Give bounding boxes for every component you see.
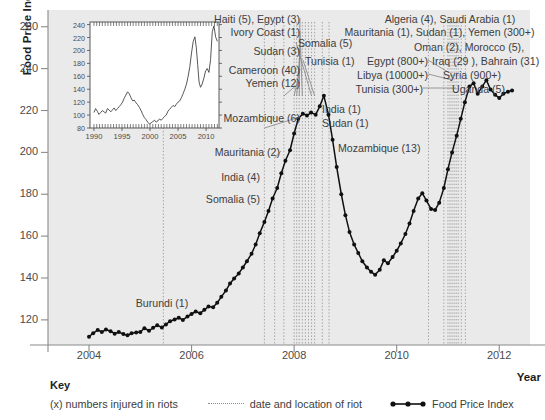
inset-y-tick-label: 160 bbox=[63, 72, 85, 81]
annotation-mauritania-sudan-yemen: Mauritania (1), Sudan (1), Yemen (300+) bbox=[334, 26, 545, 38]
key-label-fpi: Food Price Index bbox=[432, 398, 514, 410]
key-item-injured: (x) numbers injured in riots bbox=[50, 398, 178, 410]
annotation-tunisia-300: Tunisia (300+) bbox=[290, 83, 423, 95]
y-axis-title: Food Price Index bbox=[21, 0, 33, 93]
annotation-somalia-5-top: Somalia (5) bbox=[298, 37, 352, 49]
annotation-haiti-egypt: Haiti (5), Egypt (3) bbox=[120, 13, 300, 25]
x-tick-label: 2010 bbox=[367, 349, 427, 361]
y-tick-label: 200 bbox=[0, 145, 38, 157]
y-tick-label: 140 bbox=[0, 271, 38, 283]
inset-y-tick-label: 200 bbox=[63, 46, 85, 55]
key-item-riot: date and location of riot bbox=[208, 398, 362, 410]
annotation-sudan-1: Sudan (1) bbox=[322, 117, 369, 129]
y-axis-ticks bbox=[41, 27, 48, 320]
key-label-injured: (x) numbers injured in riots bbox=[50, 398, 178, 410]
annotation-algeria-saudi: Algeria (4), Saudi Arabia (1) bbox=[355, 13, 545, 25]
annotation-uganda: Uganda (5) bbox=[452, 83, 505, 95]
chart-key: Key (x) numbers injured in riots date an… bbox=[50, 379, 545, 410]
chart-root: Food Price Index Year 260240220200180160… bbox=[0, 0, 545, 420]
y-tick-label: 180 bbox=[0, 187, 38, 199]
y-tick-label: 220 bbox=[0, 104, 38, 116]
inset-x-tick-label: 2010 bbox=[189, 132, 223, 141]
annotation-india-1: India (1) bbox=[322, 103, 361, 115]
annotation-iraq-bahrain: Iraq (29 ), Bahrain (31) bbox=[432, 55, 539, 67]
inset-y-tick-label: 100 bbox=[63, 111, 85, 120]
annotation-sudan-3: Sudan (3) bbox=[120, 45, 300, 57]
annotation-egypt-800: Egypt (800+) bbox=[300, 55, 428, 67]
annotation-ivory-coast: Ivory Coast (1) bbox=[120, 26, 300, 38]
inset-y-tick-label: 120 bbox=[63, 98, 85, 107]
annotation-cameroon: Cameroon (40) bbox=[100, 64, 300, 76]
x-tick-label: 2006 bbox=[162, 349, 222, 361]
line-marker-icon bbox=[390, 399, 426, 409]
y-tick-label: 240 bbox=[0, 62, 38, 74]
dotted-line-icon bbox=[208, 403, 244, 405]
key-title: Key bbox=[50, 379, 545, 391]
annotation-mozambique-6: Mozambique (6) bbox=[120, 112, 300, 124]
annotation-mauritania-2: Mauritania (2) bbox=[120, 146, 280, 158]
inset-y-tick-label: 140 bbox=[63, 85, 85, 94]
x-tick-label: 2012 bbox=[469, 349, 529, 361]
annotation-libya: Libya (10000+) bbox=[290, 69, 428, 81]
inset-y-tick-label: 240 bbox=[63, 21, 85, 30]
annotation-india-4: India (4) bbox=[120, 171, 260, 183]
x-tick-label: 2008 bbox=[264, 349, 324, 361]
annotation-syria: Syria (900+) bbox=[443, 69, 501, 81]
annotation-yemen-12: Yemen (12) bbox=[100, 77, 300, 89]
key-item-fpi: Food Price Index bbox=[390, 398, 514, 410]
y-tick-label: 160 bbox=[0, 229, 38, 241]
x-tick-label: 2004 bbox=[59, 349, 119, 361]
annotation-oman-morocco: Oman (2), Morocco (5), bbox=[414, 41, 524, 53]
annotation-mozambique-13: Mozambique (13) bbox=[338, 142, 420, 154]
inset-y-tick-label: 180 bbox=[63, 59, 85, 68]
y-tick-label: 120 bbox=[0, 313, 38, 325]
annotation-burundi: Burundi (1) bbox=[115, 297, 209, 309]
inset-y-tick-label: 220 bbox=[63, 34, 85, 43]
annotation-somalia-5-left: Somalia (5) bbox=[120, 193, 260, 205]
key-label-riot: date and location of riot bbox=[250, 398, 362, 410]
y-tick-label: 260 bbox=[0, 20, 38, 32]
